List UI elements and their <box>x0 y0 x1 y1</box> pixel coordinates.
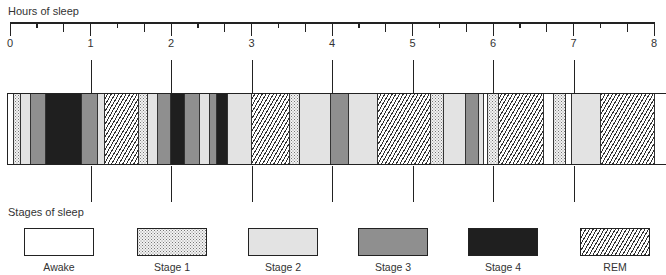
tick-label: 1 <box>87 37 93 49</box>
tick-label: 8 <box>651 37 657 49</box>
segment-stage3 <box>331 94 349 164</box>
segment-stage3 <box>185 94 200 164</box>
minor-tick <box>385 22 386 32</box>
minor-tick <box>466 22 467 32</box>
legend-swatch-awake <box>24 228 94 256</box>
segment-awake <box>544 94 554 164</box>
minor-tick <box>358 22 359 28</box>
minor-tick <box>144 22 145 32</box>
segment-stage4 <box>46 94 82 164</box>
segment-stage2 <box>300 94 331 164</box>
hour-guide-line <box>413 60 414 93</box>
segment-stage1 <box>290 94 300 164</box>
minor-tick <box>224 22 225 32</box>
hour-guide-line <box>493 60 494 93</box>
tick-label: 5 <box>409 37 415 49</box>
major-tick <box>332 22 333 36</box>
legend-swatch-stage2 <box>248 228 318 256</box>
segment-stage2 <box>228 94 251 164</box>
segment-stage2 <box>21 94 31 164</box>
legend-swatch-stage4 <box>468 228 538 256</box>
segment-awake <box>655 94 666 164</box>
segment-stage3 <box>82 94 98 164</box>
minor-tick <box>627 22 628 32</box>
tick-label: 7 <box>570 37 576 49</box>
major-tick <box>90 22 91 36</box>
tick-label: 4 <box>329 37 335 49</box>
segment-stage3 <box>31 94 45 164</box>
legend-swatch-stage3 <box>358 228 428 256</box>
major-tick <box>10 22 11 36</box>
legend-label-stage3: Stage 3 <box>375 261 411 273</box>
legend-label-rem: REM <box>603 261 626 273</box>
hour-guide-line <box>252 166 253 202</box>
hour-guide-line <box>91 166 92 202</box>
minor-tick <box>197 22 198 28</box>
segment-rem <box>601 94 655 164</box>
major-tick <box>412 22 413 36</box>
segment-rem <box>252 94 291 164</box>
tick-label: 3 <box>248 37 254 49</box>
segment-stage2 <box>148 94 158 164</box>
minor-tick <box>117 22 118 28</box>
minor-tick <box>278 22 279 28</box>
minor-tick <box>600 22 601 28</box>
segment-stage4 <box>217 94 228 164</box>
axis-title: Hours of sleep <box>8 5 79 17</box>
minor-tick <box>546 22 547 32</box>
segment-stage4 <box>171 94 185 164</box>
hypnogram-bar <box>7 93 666 165</box>
hour-guide-line <box>171 166 172 202</box>
legend-label-awake: Awake <box>43 261 74 273</box>
segment-rem <box>378 94 431 164</box>
hour-guide-line <box>574 166 575 202</box>
hour-guide-line <box>493 166 494 202</box>
segment-stage2 <box>349 94 378 164</box>
minor-tick <box>519 22 520 28</box>
tick-label: 2 <box>168 37 174 49</box>
legend-label-stage2: Stage 2 <box>265 261 301 273</box>
segment-stage3 <box>210 94 217 164</box>
segment-stage3 <box>466 94 479 164</box>
hour-guide-line <box>252 60 253 93</box>
hour-guide-line <box>413 166 414 202</box>
segment-rem <box>105 94 139 164</box>
legend-swatch-rem <box>580 228 650 256</box>
legend-swatch-stage1 <box>137 228 207 256</box>
hour-guide-line <box>574 60 575 93</box>
hour-guide-line <box>91 60 92 93</box>
segment-stage2 <box>444 94 466 164</box>
major-tick <box>573 22 574 36</box>
segment-stage2 <box>98 94 105 164</box>
segment-stage1 <box>139 94 148 164</box>
tick-label: 6 <box>490 37 496 49</box>
segment-stage1 <box>554 94 565 164</box>
legend-label-stage4: Stage 4 <box>485 261 521 273</box>
minor-tick <box>305 22 306 32</box>
major-tick <box>251 22 252 36</box>
segment-stage1 <box>488 94 498 164</box>
legend-label-stage1: Stage 1 <box>154 261 190 273</box>
segment-rem <box>499 94 544 164</box>
minor-tick <box>439 22 440 28</box>
minor-tick <box>36 22 37 28</box>
segment-stage3 <box>158 94 171 164</box>
hour-guide-line <box>332 60 333 93</box>
hour-guide-line <box>171 60 172 93</box>
tick-label: 0 <box>7 37 13 49</box>
major-tick <box>171 22 172 36</box>
legend-title: Stages of sleep <box>8 206 84 218</box>
major-tick <box>654 22 655 36</box>
hour-guide-line <box>332 166 333 202</box>
segment-stage2 <box>572 94 601 164</box>
segment-stage2 <box>200 94 210 164</box>
major-tick <box>493 22 494 36</box>
minor-tick <box>63 22 64 32</box>
segment-stage1 <box>431 94 444 164</box>
